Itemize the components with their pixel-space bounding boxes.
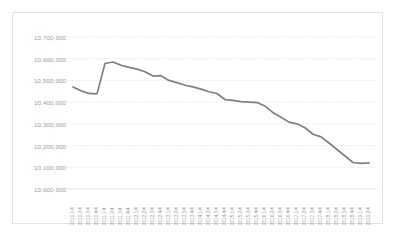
x-axis-tick-label: 2011.2/4	[110, 207, 115, 225]
y-axis-tick-label: 10,400,000	[34, 99, 66, 106]
x-axis-tick-label: 2012.1/4	[134, 207, 139, 225]
x-axis-labels: 2010.1/42010.2/42010.3/42010.4/42011.1/4…	[69, 189, 377, 225]
x-axis-tick-label: 2015.1/4	[230, 207, 235, 225]
x-axis-tick-label: 2016.1/4	[262, 207, 267, 225]
x-axis-tick-label: 2012.4/4	[158, 207, 163, 225]
x-axis-tick-label: 2017.4/4	[318, 207, 323, 225]
x-axis-tick-label: 2011.4/4	[126, 207, 131, 225]
y-axis-tick-label: 10,100,000	[34, 164, 66, 171]
y-axis-tick-label: 10,200,000	[34, 142, 66, 149]
x-axis-tick-label: 2012.3/4	[150, 207, 155, 225]
x-axis-tick-label: 2014.3/4	[214, 207, 219, 225]
x-axis-tick-label: 2017.3/4	[310, 207, 315, 225]
x-axis-tick-label: 2017.1/4	[294, 207, 299, 225]
x-axis-tick-label: 2013.4/4	[190, 207, 195, 225]
x-axis-tick-label: 2010.1/4	[70, 207, 75, 225]
x-axis-tick-label: 2010.4/4	[94, 207, 99, 225]
y-axis-tick-label: 10,600,000	[34, 55, 66, 62]
x-axis-tick-label: 2016.3/4	[278, 207, 283, 225]
x-axis-tick-label: 2019.1/4	[358, 207, 363, 225]
x-axis-tick-label: 2018.4/4	[350, 207, 355, 225]
x-axis-tick-label: 2016.2/4	[270, 207, 275, 225]
x-axis-tick-label: 2014.4/4	[222, 207, 227, 225]
x-axis-tick-label: 2013.2/4	[174, 207, 179, 225]
x-axis-tick-label: 2012.2/4	[142, 207, 147, 225]
x-axis-tick-label: 2014.2/4	[206, 207, 211, 225]
x-axis-tick-label: 2015.2/4	[238, 207, 243, 225]
x-axis-tick-label: 2010.2/4	[78, 207, 83, 225]
x-axis-tick-label: 2018.3/4	[342, 207, 347, 225]
x-axis-tick-label: 2019.2/4	[366, 207, 371, 225]
x-axis-tick-label: 2010.3/4	[86, 207, 91, 225]
y-axis-tick-label: 10,500,000	[34, 77, 66, 84]
series-path-population	[73, 62, 369, 163]
x-axis-tick-label: 2018.2/4	[334, 207, 339, 225]
x-axis-tick-label: 2016.4/4	[286, 207, 291, 225]
x-axis-tick-label: 2017.2/4	[302, 207, 307, 225]
x-axis-tick-label: 2013.3/4	[182, 207, 187, 225]
x-axis-tick-label: 2018.1/4	[326, 207, 331, 225]
x-axis-tick-label: 2013.1/4	[166, 207, 171, 225]
x-axis-tick-label: 2015.3/4	[246, 207, 251, 225]
x-axis-tick-label: 2014.1/4	[198, 207, 203, 225]
chart-card: 10,700,00010,600,00010,500,00010,400,000…	[12, 12, 383, 224]
x-axis-tick-label: 2011.3/4	[118, 207, 123, 225]
y-axis-labels: 10,700,00010,600,00010,500,00010,400,000…	[13, 13, 69, 225]
x-axis-tick-label: 2015.4/4	[254, 207, 259, 225]
y-axis-tick-label: 10,300,000	[34, 120, 66, 127]
y-axis-tick-label: 10,000,000	[34, 186, 66, 193]
x-axis-tick-label: 2011.1/4	[102, 207, 107, 225]
line-chart: 10,700,00010,600,00010,500,00010,400,000…	[13, 13, 384, 225]
y-axis-tick-label: 10,700,000	[34, 34, 66, 41]
